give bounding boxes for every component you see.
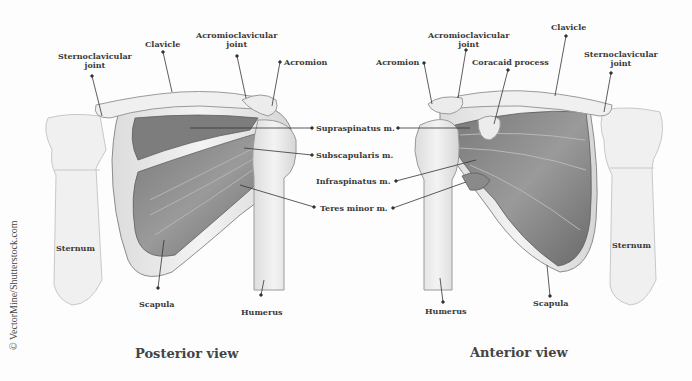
label-acromioclavicular-joint-anterior: Acromioclavicular joint bbox=[428, 31, 509, 49]
label-humerus-anterior: Humerus bbox=[425, 307, 466, 316]
label-humerus-posterior: Humerus bbox=[241, 308, 282, 317]
title-posterior-view: Posterior view bbox=[135, 346, 238, 361]
label-clavicle-posterior: Clavicle bbox=[145, 40, 180, 49]
label-sternum-posterior: Sternum bbox=[56, 244, 95, 253]
label-coracoid-process: Coracaid process bbox=[472, 58, 549, 67]
label-sternum-anterior: Sternum bbox=[612, 241, 651, 250]
label-line: joint bbox=[584, 59, 658, 68]
label-sternoclavicular-joint-anterior: Sternoclavicular joint bbox=[584, 50, 658, 68]
sternum-bone-posterior bbox=[46, 114, 106, 305]
posterior-view bbox=[46, 92, 297, 306]
label-subscapularis: Subscapularis m. bbox=[316, 151, 393, 160]
sternum-bone-anterior bbox=[601, 108, 663, 305]
label-acromion-anterior: Acromion bbox=[376, 58, 419, 67]
label-scapula-anterior: Scapula bbox=[533, 299, 568, 308]
copyright-credit: © VectorMine/Shutterstock.com bbox=[8, 220, 19, 350]
label-acromion-posterior: Acromion bbox=[284, 58, 327, 67]
label-line: joint bbox=[196, 40, 277, 49]
label-line: joint bbox=[58, 61, 132, 70]
label-sternoclavicular-joint-posterior: Sternoclavicular joint bbox=[58, 52, 132, 70]
humerus-bone-anterior bbox=[415, 120, 459, 290]
title-anterior-view: Anterior view bbox=[470, 345, 568, 360]
label-line: joint bbox=[428, 40, 509, 49]
acromion-bone-anterior bbox=[428, 97, 463, 114]
label-infraspinatus: Infraspinatus m. bbox=[316, 177, 391, 186]
anterior-view bbox=[415, 91, 663, 305]
label-scapula-posterior: Scapula bbox=[139, 300, 174, 309]
label-clavicle-anterior: Clavicle bbox=[551, 23, 586, 32]
humerus-bone-posterior bbox=[253, 120, 297, 290]
label-teres-minor: Teres minor m. bbox=[320, 204, 388, 213]
label-acromioclavicular-joint-posterior: Acromioclavicular joint bbox=[196, 31, 277, 49]
label-supraspinatus: Supraspinatus m. bbox=[316, 124, 395, 133]
